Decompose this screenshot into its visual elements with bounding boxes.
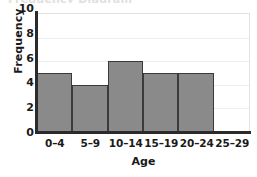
x-axis-tick-labels: 0–4 5–9 10–14 15–19 20–24 25–29: [37, 136, 250, 152]
y-tick-label: 4: [14, 77, 34, 88]
bar-slot: [178, 14, 213, 132]
bar-15-19: [143, 73, 178, 132]
x-tick-label: 25–29: [215, 136, 251, 152]
y-tick-label: 8: [14, 27, 34, 38]
y-tick-label: 2: [14, 102, 34, 113]
x-axis-title: Age: [37, 155, 250, 168]
x-tick-label: 10–14: [108, 136, 144, 152]
x-tick-label: 0–4: [37, 136, 73, 152]
bar-slot: [72, 14, 107, 132]
bar-slot: [108, 14, 143, 132]
y-tick-label: 6: [14, 52, 34, 63]
bar-slot: [214, 14, 249, 132]
bar-10-14: [108, 61, 143, 132]
plot-area: [37, 13, 250, 132]
x-tick-label: 20–24: [179, 136, 215, 152]
y-axis-line: [35, 11, 38, 134]
histogram-figure: Frequency 10 8 6 4 2 0 0–4 5–9 10–14 15–…: [0, 0, 257, 177]
x-tick-label: 5–9: [73, 136, 109, 152]
y-axis-tick-labels: 10 8 6 4 2 0: [14, 8, 34, 132]
bar-5-9: [72, 85, 107, 132]
y-tick-label: 0: [14, 127, 34, 138]
bar-0-4: [37, 73, 72, 132]
bar-series: [37, 14, 249, 132]
bar-slot: [37, 14, 72, 132]
bar-slot: [143, 14, 178, 132]
x-axis-line: [35, 131, 251, 134]
y-tick-label: 10: [14, 3, 34, 14]
x-tick-label: 15–19: [144, 136, 180, 152]
bar-20-24: [178, 73, 213, 132]
